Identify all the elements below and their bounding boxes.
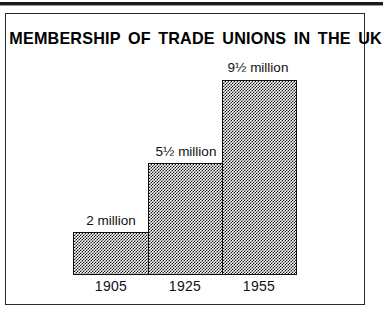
bar-value-label-1955: 9½ million: [205, 60, 311, 75]
x-axis-label-1955: 1955: [219, 278, 299, 294]
bar-1925: [148, 163, 223, 275]
x-axis-label-1905: 1905: [71, 278, 151, 294]
bar-1905: [73, 232, 149, 275]
bar-value-label-1925: 5½ million: [136, 144, 236, 159]
bar-1955: [222, 80, 297, 275]
plot-area: 2 million 1905 5½ million 1925 9½ millio…: [0, 0, 383, 320]
x-axis-label-1925: 1925: [145, 278, 225, 294]
bar-value-label-1905: 2 million: [61, 213, 161, 228]
chart-screenshot: MEMBERSHIP OF TRADE UNIONS IN THE UK 2 m…: [0, 0, 383, 320]
